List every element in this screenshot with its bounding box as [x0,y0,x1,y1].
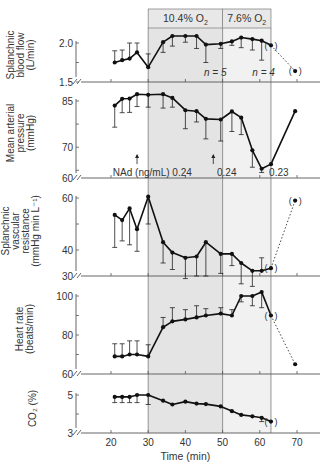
data-point [230,39,234,43]
data-point [239,294,243,298]
paren-close: ) [274,311,277,321]
data-point [239,35,243,39]
data-point [128,57,132,61]
y-tick-label: 5 [67,390,73,401]
paren-close: ) [274,41,277,51]
paren-open: ( [264,417,267,427]
y-axis-label: (L/min) [25,39,36,70]
data-point [120,58,124,62]
data-point [135,227,139,231]
data-point [146,195,150,199]
y-axis-label: CO₂ (%) [27,390,38,427]
data-point [260,290,264,294]
data-point [170,319,174,323]
data-point [113,60,117,64]
data-point [183,34,187,38]
data-point [194,34,198,38]
data-point [239,261,243,265]
data-point [128,206,132,210]
data-point [230,409,234,413]
data-point [194,254,198,258]
y-tick-label: 80 [62,330,74,341]
data-point [128,395,132,399]
data-point [161,325,165,329]
data-point [183,400,187,404]
y-tick-label: 40 [62,245,74,256]
data-point [194,109,198,113]
paren-open: ( [264,41,267,51]
x-tick-label: 50 [217,437,229,448]
data-point [120,97,124,101]
axis-break-icon [73,79,81,84]
chart-canvas: 10.4% O27.6% O22.01.5Splanchnicblood flo… [0,0,331,467]
axis-break-icon [73,430,81,435]
data-point [250,37,254,41]
recovery-point [293,362,297,366]
data-point [204,117,208,121]
data-point [146,354,150,358]
data-point [170,34,174,38]
y-tick-label: 70 [62,142,74,153]
data-point [260,39,264,43]
data-point [250,148,254,152]
data-point [204,42,208,46]
data-point [230,252,234,256]
data-point [120,354,124,358]
data-point [135,50,139,54]
axis-break-icon [73,371,81,376]
recovery-dotted-line [271,201,295,269]
paren-close: ) [299,66,302,76]
data-point [135,352,139,356]
data-point [239,116,243,120]
data-point [135,393,139,397]
data-point [219,42,223,46]
data-point [293,109,297,113]
data-point [170,251,174,255]
y-tick-label: 100 [56,291,73,302]
x-tick-label: 60 [254,437,266,448]
paren-open: ( [289,196,292,206]
data-point [269,162,273,166]
paren-close: ) [274,263,277,273]
paren-open: ( [264,311,267,321]
y-tick-label: 1.5 [59,77,73,88]
data-point [260,167,264,171]
data-point [128,352,132,356]
data-point [120,218,124,222]
recovery-point [269,43,273,47]
noradrenaline-label: NAd (ng/mL) 0.24 [113,167,192,178]
data-point [230,109,234,113]
paren-open: ( [264,263,267,273]
data-point [128,96,132,100]
data-point [146,65,150,69]
x-tick-label: 40 [180,437,192,448]
y-axis-label: (mmHg) [25,115,36,151]
data-point [161,92,165,96]
data-point [194,401,198,405]
recovery-point [269,313,273,317]
data-point [250,294,254,298]
data-point [219,404,223,408]
y-baseline-label: 3 [67,428,73,439]
data-point [204,313,208,317]
phase-label-1: 10.4% O2 [163,12,208,26]
y-tick-label: 60 [62,193,74,204]
data-point [170,402,174,406]
recovery-point [269,420,273,424]
data-point [170,96,174,100]
data-point [135,92,139,96]
recovery-point [293,199,297,203]
x-axis-title: Time (min) [161,450,211,462]
noradrenaline-label: 0.23 [269,167,289,178]
paren-open: ( [289,66,292,76]
data-point [239,413,243,417]
data-point [146,93,150,97]
data-point [183,317,187,321]
y-tick-label: 85 [62,96,74,107]
y-baseline-label: 60 [62,173,74,184]
figure: 10.4% O27.6% O22.01.5Splanchnicblood flo… [0,0,331,467]
data-point [113,354,117,358]
x-tick-label: 20 [105,437,117,448]
recovery-point [293,69,297,73]
data-point [219,117,223,121]
